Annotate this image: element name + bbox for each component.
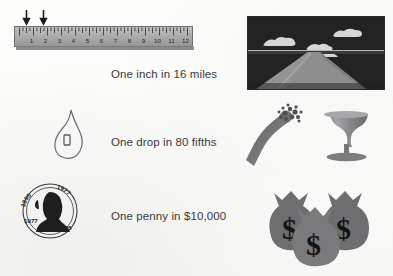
- ruler-number: 5: [86, 37, 90, 44]
- ruler-number: 12: [182, 37, 189, 44]
- goblet-bowl: [324, 114, 368, 147]
- ruler-tick: [180, 28, 181, 34]
- ruler-tick: [170, 28, 171, 32]
- ruler-tick: [26, 28, 27, 34]
- ruler-tick: [19, 28, 20, 36]
- ruler-tick: [93, 28, 94, 32]
- ruler-tick: [152, 28, 153, 34]
- measure-arrow-right-icon: [39, 10, 48, 24]
- ruler-tick: [61, 28, 62, 36]
- ruler-tick: [159, 28, 160, 36]
- ruler-tick: [128, 28, 129, 32]
- ruler-tick: [142, 28, 143, 32]
- ruler-tick: [110, 28, 111, 34]
- ruler-tick: [89, 28, 90, 36]
- label-one-penny-in-10000: One penny in $10,000: [111, 210, 226, 222]
- ruler-tick: [40, 28, 41, 34]
- ruler-tick: [173, 28, 174, 36]
- penny-left-date: 1977: [24, 217, 38, 224]
- ruler-svg: 123456789101112: [14, 26, 194, 52]
- money-bags-illustration: $ $ $: [258, 176, 386, 262]
- ruler-tick: [82, 28, 83, 34]
- money-bag-center-symbol: $: [306, 228, 321, 261]
- money-bags-svg: $ $ $: [258, 176, 386, 262]
- ruler-tick: [58, 28, 59, 32]
- bottle-goblet-svg: [252, 104, 384, 166]
- label-one-drop-in-80-fifths: One drop in 80 fifths: [111, 136, 217, 148]
- ruler-tick: [156, 28, 157, 32]
- ruler-tick: [65, 28, 66, 32]
- ruler-number: 11: [168, 37, 175, 44]
- ruler-tick: [149, 28, 150, 32]
- ruler-tick: [177, 28, 178, 32]
- ruler-tick: [33, 28, 34, 36]
- drop-inner-mark: [64, 135, 70, 145]
- drop-outline: [55, 110, 82, 158]
- ruler-tick: [163, 28, 164, 32]
- ruler-tick: [135, 28, 136, 32]
- ruler-tick: [138, 28, 139, 34]
- ruler-tick: [68, 28, 69, 34]
- ruler-tick: [23, 28, 24, 32]
- road-photo: [247, 16, 385, 90]
- ruler-number: 1: [30, 37, 34, 44]
- ruler-tick: [100, 28, 101, 32]
- penny-right-date: 1895: [58, 224, 72, 231]
- ruler-number: 10: [154, 37, 161, 44]
- goblet-rim: [324, 111, 368, 118]
- ruler-tick: [117, 28, 118, 36]
- ruler-edge-shadow: [16, 47, 194, 51]
- ruler-tick: [124, 28, 125, 34]
- ruler-tick: [72, 28, 73, 32]
- label-one-inch-in-16-miles: One inch in 16 miles: [111, 68, 217, 80]
- ruler-tick: [75, 28, 76, 36]
- measure-arrow-left-icon: [22, 10, 31, 24]
- ruler-tick: [37, 28, 38, 32]
- ruler-tick: [51, 28, 52, 32]
- ruler-tick: [47, 28, 48, 36]
- ruler-number: 7: [114, 37, 118, 44]
- ruler-tick: [54, 28, 55, 34]
- bottle-and-goblet-illustration: [252, 104, 384, 166]
- ruler-tick: [96, 28, 97, 34]
- goblet: [324, 111, 368, 161]
- ruler-tick: [114, 28, 115, 32]
- ruler-tick: [86, 28, 87, 32]
- water-drop-svg: [46, 108, 92, 160]
- ruler-tick: [131, 28, 132, 36]
- ruler-number: 3: [58, 37, 62, 44]
- ruler-number: 2: [44, 37, 48, 44]
- penny-illustration: 1895 1977 1977 1895: [14, 178, 86, 244]
- ruler-illustration: 123456789101112: [14, 26, 194, 52]
- ruler-number: 9: [142, 37, 146, 44]
- ruler-tick: [166, 28, 167, 34]
- ruler-number: 4: [72, 37, 76, 44]
- ruler-tick: [44, 28, 45, 32]
- ruler-tick: [107, 28, 108, 32]
- penny-svg: 1895 1977 1977 1895: [14, 178, 86, 244]
- ruler-tick: [145, 28, 146, 36]
- water-drop-illustration: [46, 108, 92, 160]
- ruler-tick: [184, 28, 185, 32]
- road-foreground-shadow: [248, 83, 384, 89]
- goblet-base: [327, 153, 367, 161]
- ruler-tick: [79, 28, 80, 32]
- ruler-tick: [30, 28, 31, 32]
- ruler-number: 8: [128, 37, 132, 44]
- ruler-tick: [187, 28, 188, 36]
- ruler-number: 6: [100, 37, 104, 44]
- ruler-tick: [103, 28, 104, 36]
- road-photo-svg: [248, 17, 384, 89]
- ruler-tick: [121, 28, 122, 32]
